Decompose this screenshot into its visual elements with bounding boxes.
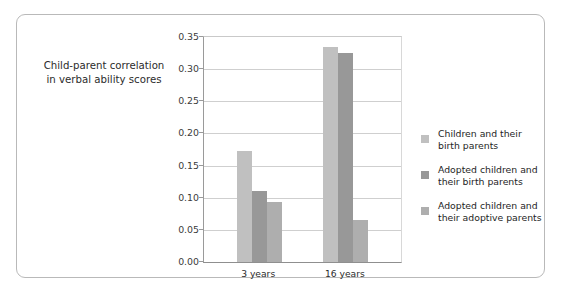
legend-label-series-2-line-1: Adopted children and xyxy=(438,164,541,176)
legend-label-series-3: Adopted children and their adoptive pare… xyxy=(438,200,541,225)
y-axis-tick-0.35: 0.35 xyxy=(163,31,199,42)
y-axis-tickmark xyxy=(199,132,203,133)
bar xyxy=(353,220,368,262)
legend-label-series-1-line-1: Children and their xyxy=(438,128,541,140)
y-axis-tick-0.20: 0.20 xyxy=(163,127,199,138)
y-axis-tick-0.30: 0.30 xyxy=(163,63,199,74)
legend-label-series-3-line-2: their adoptive parents xyxy=(438,212,541,224)
y-axis-tickmark xyxy=(199,261,203,262)
y-axis-tickmark xyxy=(199,229,203,230)
y-axis-tick-0.10: 0.10 xyxy=(163,191,199,202)
bar xyxy=(237,151,252,262)
legend-item-adopted-adoptive-parents: Adopted children and their adoptive pare… xyxy=(421,200,541,225)
y-axis-tick-0.15: 0.15 xyxy=(163,159,199,170)
y-axis-title-line-1: Child-parent correlation xyxy=(29,59,179,73)
legend-label-series-1-line-2: birth parents xyxy=(438,140,541,152)
legend-item-adopted-birth-parents: Adopted children and their birth parents xyxy=(421,164,541,189)
x-axis-label-3-years: 3 years xyxy=(241,268,275,279)
bar xyxy=(267,202,282,262)
legend-label-series-2: Adopted children and their birth parents xyxy=(438,164,541,189)
bar xyxy=(252,191,267,262)
y-axis-tick-0.25: 0.25 xyxy=(163,95,199,106)
plot-area xyxy=(203,36,402,263)
y-axis-tick-0.00: 0.00 xyxy=(163,256,199,267)
chart-legend: Children and their birth parents Adopted… xyxy=(421,128,541,235)
legend-label-series-2-line-2: their birth parents xyxy=(438,176,541,188)
legend-label-series-3-line-1: Adopted children and xyxy=(438,200,541,212)
y-axis-tick-labels: 0.000.050.100.150.200.250.300.35 xyxy=(159,36,199,263)
legend-item-children-birth-parents: Children and their birth parents xyxy=(421,128,541,153)
y-axis-tickmark xyxy=(199,165,203,166)
y-axis-tickmark xyxy=(199,36,203,37)
y-axis-title-line-2: in verbal ability scores xyxy=(29,73,179,87)
x-axis-label-16-years: 16 years xyxy=(325,268,365,279)
legend-swatch-series-1 xyxy=(421,135,429,143)
y-axis-tickmark xyxy=(199,197,203,198)
y-axis-tick-0.05: 0.05 xyxy=(163,223,199,234)
gridline xyxy=(204,133,401,134)
legend-swatch-series-3 xyxy=(421,207,429,215)
gridline xyxy=(204,101,401,102)
gridline xyxy=(204,230,401,231)
y-axis-tickmark xyxy=(199,100,203,101)
chart-figure: Child-parent correlation in verbal abili… xyxy=(16,14,545,278)
gridline xyxy=(204,69,401,70)
legend-label-series-1: Children and their birth parents xyxy=(438,128,541,153)
bar xyxy=(323,47,338,262)
y-axis-title: Child-parent correlation in verbal abili… xyxy=(29,59,179,87)
y-axis-tickmark xyxy=(199,68,203,69)
gridline xyxy=(204,198,401,199)
bar xyxy=(338,53,353,262)
gridline xyxy=(204,166,401,167)
legend-swatch-series-2 xyxy=(421,171,429,179)
